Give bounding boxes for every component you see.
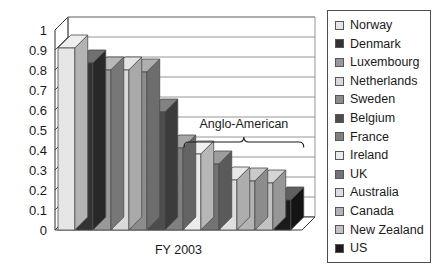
bar-side-face: [147, 59, 160, 230]
chart-legend: NorwayDenmarkLuxembourgNetherlandsSweden…: [327, 10, 431, 263]
bar-column[interactable]: [58, 35, 88, 230]
legend-item[interactable]: Luxembourg: [335, 53, 430, 72]
legend-item-label: UK: [350, 168, 367, 181]
bar-side-face: [219, 151, 232, 230]
plot-area: 00.10.20.30.40.50.60.70.80.91Anglo-Ameri…: [0, 0, 316, 272]
legend-swatch-icon: [335, 207, 344, 216]
legend-swatch-icon: [335, 58, 344, 67]
y-axis-tick-label: 0.1: [29, 203, 47, 218]
legend-item-label: Australia: [350, 186, 399, 199]
bar-side-face: [129, 57, 142, 230]
bar-chart-svg: 00.10.20.30.40.50.60.70.80.91Anglo-Ameri…: [0, 0, 316, 272]
bar-side-face: [75, 35, 88, 230]
y-axis-tick-label: 0.6: [29, 103, 47, 118]
y-axis-tick-label: 1: [40, 23, 47, 38]
legend-swatch-icon: [335, 21, 344, 30]
legend-swatch-icon: [335, 95, 344, 104]
legend-swatch-icon: [335, 244, 344, 253]
y-axis-tick-label: 0.7: [29, 83, 47, 98]
legend-item-label: Belgium: [350, 112, 395, 125]
legend-swatch-icon: [335, 77, 344, 86]
legend-item[interactable]: Norway: [335, 16, 430, 35]
legend-swatch-icon: [335, 188, 344, 197]
legend-item-label: Ireland: [350, 149, 388, 162]
y-axis-tick-label: 0: [40, 223, 47, 238]
legend-item[interactable]: Canada: [335, 202, 430, 221]
legend-item-label: Luxembourg: [350, 56, 420, 69]
legend-item-label: Sweden: [350, 93, 395, 106]
legend-item[interactable]: UK: [335, 165, 430, 184]
legend-swatch-icon: [335, 132, 344, 141]
legend-swatch-icon: [335, 170, 344, 179]
bar-side-face: [111, 57, 124, 230]
legend-item[interactable]: Denmark: [335, 35, 430, 54]
bar-side-face: [201, 141, 214, 230]
legend-item[interactable]: Australia: [335, 183, 430, 202]
legend-item-label: Canada: [350, 205, 394, 218]
bar-front-face: [58, 48, 75, 230]
legend-item-label: US: [350, 242, 367, 255]
legend-item[interactable]: Ireland: [335, 146, 430, 165]
legend-item[interactable]: US: [335, 239, 430, 258]
legend-item-label: Norway: [350, 19, 392, 32]
legend-item-label: France: [350, 131, 389, 144]
chart-screenshot: 00.10.20.30.40.50.60.70.80.91Anglo-Ameri…: [0, 0, 440, 272]
anglo-american-label: Anglo-American: [199, 117, 288, 131]
y-axis-tick-label: 0.9: [29, 43, 47, 58]
legend-swatch-icon: [335, 225, 344, 234]
x-axis-label: FY 2003: [155, 243, 202, 257]
legend-swatch-icon: [335, 114, 344, 123]
legend-item-label: Netherlands: [350, 75, 417, 88]
y-axis-top-depth: [55, 17, 68, 30]
y-axis-tick-label: 0.8: [29, 63, 47, 78]
legend-swatch-icon: [335, 39, 344, 48]
legend-item-label: New Zealand: [350, 224, 424, 237]
legend-item[interactable]: Belgium: [335, 109, 430, 128]
bar-side-face: [165, 99, 178, 230]
y-axis-tick-label: 0.2: [29, 183, 47, 198]
y-axis-tick-label: 0.4: [29, 143, 47, 158]
bar-side-face: [183, 135, 196, 230]
legend-item[interactable]: France: [335, 128, 430, 147]
y-axis-tick-label: 0.3: [29, 163, 47, 178]
legend-item[interactable]: Sweden: [335, 90, 430, 109]
legend-item[interactable]: Netherlands: [335, 72, 430, 91]
legend-swatch-icon: [335, 151, 344, 160]
legend-item[interactable]: New Zealand: [335, 221, 430, 240]
bar-side-face: [93, 50, 106, 230]
y-axis-tick-label: 0.5: [29, 123, 47, 138]
legend-item-label: Denmark: [350, 38, 401, 51]
